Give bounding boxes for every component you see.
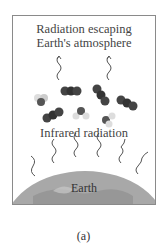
wavy-arrow-icon bbox=[57, 56, 111, 80]
infrared-radiation-label: Infrared radiation bbox=[13, 126, 155, 141]
figure-caption: (a) bbox=[0, 229, 167, 244]
diagram-frame: Radiation escaping Earth's atmosphere bbox=[12, 15, 156, 205]
earth-label: Earth bbox=[13, 181, 155, 196]
diagram-graphics bbox=[13, 16, 156, 205]
greenhouse-molecule-icon bbox=[34, 85, 138, 128]
